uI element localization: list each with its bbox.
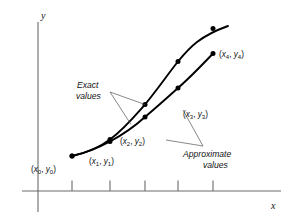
- approximate-leader-line-lower: [166, 140, 203, 146]
- approximate-values-callout-line2: values: [203, 160, 229, 170]
- point-label-0-close: ): [53, 165, 56, 174]
- approximate-point-1: [108, 139, 113, 144]
- point-label-3: (x3, y3): [183, 110, 208, 120]
- point-label-4: (x4, y4): [219, 50, 244, 60]
- approximate-point-4: [211, 51, 216, 56]
- approximate-values-callout: Approximate values: [182, 149, 231, 170]
- point-label-2: (x2, y2): [120, 137, 145, 147]
- exact-point-4: [211, 26, 216, 31]
- point-label-2-close: ): [142, 137, 145, 146]
- approximate-point-2: [143, 115, 148, 120]
- diagram-canvas: y x: [0, 0, 297, 224]
- point-label-0: (x0, y0): [31, 165, 56, 175]
- exact-values-leader-lines: [110, 92, 145, 125]
- exact-leader-line-upper: [110, 92, 145, 105]
- x-axis-label: x: [270, 200, 276, 211]
- point-label-1-close: ): [111, 157, 114, 166]
- exact-values-callout-line1: Exact: [77, 80, 99, 90]
- exact-point-3: [176, 59, 181, 64]
- exact-values-callout: Exact values: [76, 80, 102, 101]
- point-label-3-close: ): [205, 110, 208, 119]
- exact-leader-line-lower: [110, 92, 131, 125]
- figure-container: y x: [0, 0, 297, 224]
- exact-values-callout-line2: values: [76, 91, 102, 101]
- y-axis-label: y: [40, 10, 46, 21]
- approximate-point-0: [70, 154, 75, 159]
- point-label-4-close: ): [241, 50, 244, 59]
- approximate-point-3: [176, 86, 181, 91]
- point-label-1: (x1, y1): [89, 157, 114, 167]
- approximate-values-callout-line1: Approximate: [182, 149, 231, 159]
